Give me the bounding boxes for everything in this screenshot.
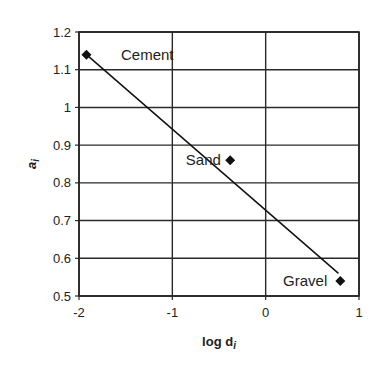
annotation-gravel: Gravel	[283, 272, 327, 289]
x-axis-ticks: -2-101	[73, 296, 362, 320]
y-axis-label-main: a	[24, 162, 39, 169]
point-annotations: CementSandGravel	[121, 46, 327, 289]
x-tick-label: 0	[262, 305, 269, 320]
y-tick-label: 0.6	[53, 251, 71, 266]
y-tick-label: 0.9	[53, 138, 71, 153]
y-tick-label: 0.7	[53, 213, 71, 228]
diamond-marker-sand	[225, 155, 235, 165]
y-axis-label: ai	[24, 159, 41, 169]
annotation-cement: Cement	[121, 46, 174, 63]
y-tick-label: 1	[64, 100, 71, 115]
y-tick-label: 0.5	[53, 289, 71, 304]
y-tick-label: 0.8	[53, 175, 71, 190]
scatter-chart: 0.50.60.70.80.911.11.2 -2-101 CementSand…	[0, 0, 380, 378]
y-axis-label-subscript: i	[30, 159, 41, 162]
x-axis-label-subscript: i	[233, 340, 236, 351]
x-axis-label-main: log d	[202, 334, 233, 349]
y-tick-label: 1.1	[53, 62, 71, 77]
x-tick-label: -1	[167, 305, 179, 320]
diamond-marker-gravel	[335, 276, 345, 286]
x-tick-label: -2	[73, 305, 85, 320]
y-axis-ticks: 0.50.60.70.80.911.11.2	[53, 25, 79, 304]
x-axis-label: log di	[202, 334, 236, 351]
annotation-sand: Sand	[186, 151, 221, 168]
y-tick-label: 1.2	[53, 25, 71, 40]
x-tick-label: 1	[355, 305, 362, 320]
